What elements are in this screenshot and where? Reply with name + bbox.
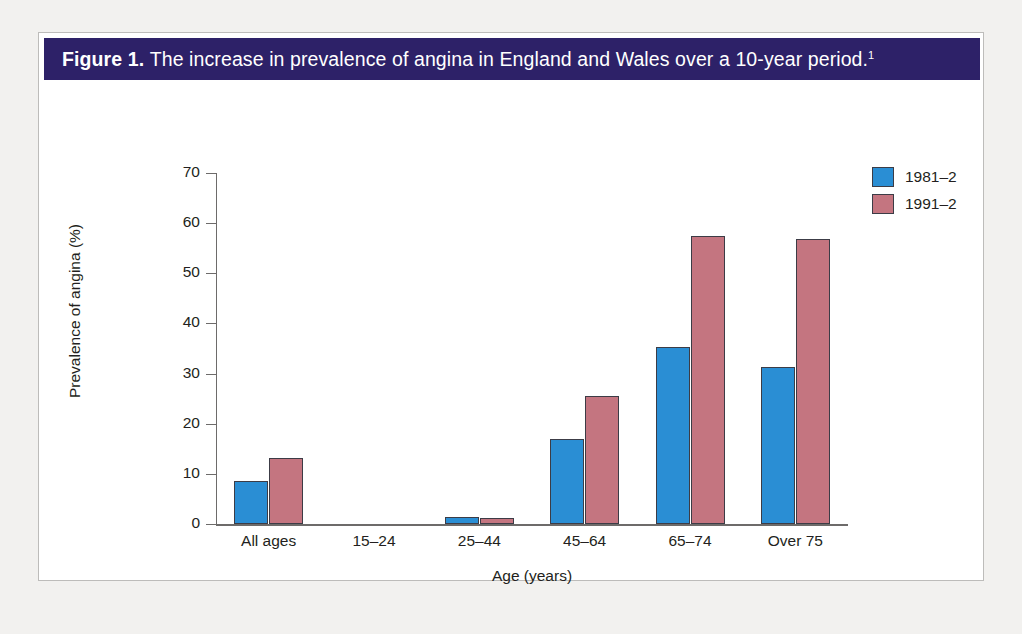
y-tick-label: 70 [154,164,200,180]
bar-series-b [585,396,619,524]
x-tick-label: 15–24 [321,532,426,550]
y-tick-mark [206,323,216,324]
y-tick-mark [206,524,216,525]
y-tick-label: 50 [154,264,200,280]
figure-reference-marker: 1 [868,48,874,60]
bar-series-b [796,239,830,524]
bar-series-b [691,236,725,524]
legend-label: 1991–2 [905,195,957,213]
y-tick-label: 20 [154,415,200,431]
x-tick-label: 45–64 [532,532,637,550]
x-axis-tick-labels: All ages15–2425–4445–6465–74Over 75 [216,532,848,560]
legend-label: 1981–2 [905,168,957,186]
bar-series-b [269,458,303,524]
legend-swatch [872,167,894,187]
chart-legend: 1981–21991–2 [872,167,992,221]
y-tick-mark [206,424,216,425]
x-tick-label: All ages [216,532,321,550]
y-tick-mark [206,173,216,174]
y-axis-ticks: 010203040506070 [44,80,216,577]
x-tick-label: 65–74 [637,532,742,550]
figure-title-text: Figure 1. The increase in prevalence of … [44,48,874,71]
figure-label: Figure 1. [62,48,144,70]
y-tick-mark [206,374,216,375]
y-tick-label: 30 [154,365,200,381]
bar-series-a [445,517,479,524]
bars-layer [216,173,848,524]
y-tick-mark [206,474,216,475]
x-tick-label: Over 75 [743,532,848,550]
y-tick-label: 60 [154,214,200,230]
bar-series-b [480,518,514,524]
y-tick-mark [206,273,216,274]
legend-item: 1981–2 [872,167,992,187]
bar-series-a [234,481,268,524]
y-tick-label: 10 [154,465,200,481]
y-tick-label: 0 [154,515,200,531]
figure-caption-text: The increase in prevalence of angina in … [150,48,868,70]
bar-series-a [550,439,584,524]
y-tick-mark [206,223,216,224]
y-tick-label: 40 [154,314,200,330]
x-axis-line [216,524,848,526]
x-axis-title: Age (years) [216,567,848,585]
bar-series-a [656,347,690,525]
legend-item: 1991–2 [872,194,992,214]
figure-panel: Figure 1. The increase in prevalence of … [38,32,984,581]
x-tick-label: 25–44 [427,532,532,550]
legend-swatch [872,194,894,214]
chart-plot-region: Prevalence of angina (%) 010203040506070… [44,80,980,577]
figure-title-bar: Figure 1. The increase in prevalence of … [44,38,980,80]
bar-series-a [761,367,795,524]
